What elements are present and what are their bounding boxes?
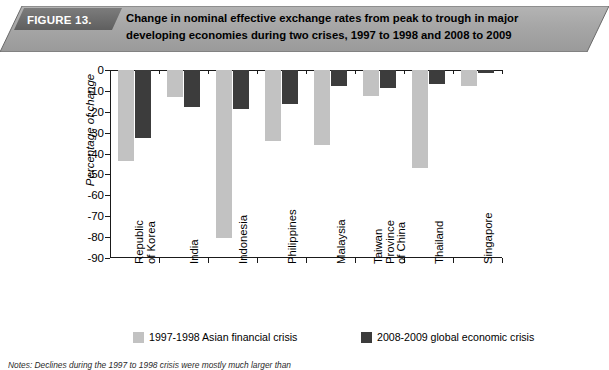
y-tick [105,91,110,92]
figure-number-label: FIGURE 13. [27,13,115,27]
y-tick [105,195,110,196]
bar-crisis-2008 [478,70,494,73]
bar-crisis-2008 [331,70,347,86]
bar-crisis-1997 [314,70,330,145]
category-label-line: Singapore [483,212,495,264]
y-axis-line [110,70,111,258]
category-label-line: Philippines [287,209,299,264]
y-axis-title: Percentage of change [84,64,96,196]
bar-crisis-1997 [118,70,134,161]
x-category-label: Indonesia [238,215,250,264]
x-tick-top [159,70,160,74]
y-tick [105,258,110,259]
bar-crisis-1997 [363,70,379,96]
y-tick [105,133,110,134]
category-label-line: of Korea [145,220,157,264]
category-label-line: Thailand [434,221,446,264]
x-category-label: Singapore [483,212,495,264]
y-tick [105,216,110,217]
x-tick-top [453,70,454,74]
bar-crisis-2008 [282,70,298,104]
legend-item-crisis_1997: 1997-1998 Asian financial crisis [133,330,297,344]
x-tick-top [306,70,307,74]
figure-title-line-1: Change in nominal effective exchange rat… [126,10,581,27]
x-tick-top [257,70,258,74]
bar-crisis-2008 [135,70,151,138]
category-label-line: India [189,240,201,265]
x-category-label: Republicof Korea [134,220,157,264]
y-tick [105,174,110,175]
bar-crisis-1997 [265,70,281,141]
category-label-line: of China [396,220,408,264]
chart-legend: 1997-1998 Asian financial crisis2008-200… [133,330,553,346]
banner-text-layer: FIGURE 13. Change in nominal effective e… [0,6,609,52]
bar-crisis-1997 [216,70,232,238]
figure-title: Change in nominal effective exchange rat… [126,10,581,43]
category-label-line: Taiwan [373,220,385,264]
x-tick-top [502,70,503,74]
category-label-line: Indonesia [238,215,250,264]
figure-banner: FIGURE 13. Change in nominal effective e… [0,6,609,52]
x-tick-top [208,70,209,74]
legend-label-crisis_1997: 1997-1998 Asian financial crisis [149,331,297,343]
x-tick-top [404,70,405,74]
x-axis-category-labels: Republicof KoreaIndiaIndonesiaPhilippine… [110,262,502,328]
bar-crisis-1997 [167,70,183,97]
y-tick [105,70,110,71]
bar-crisis-2008 [380,70,396,88]
y-tick [105,154,110,155]
x-tick-top [355,70,356,74]
bar-crisis-1997 [412,70,428,168]
bar-crisis-1997 [461,70,477,86]
bar-crisis-2008 [184,70,200,107]
bar-crisis-2008 [429,70,445,84]
figure-title-line-2: developing economies during two crises, … [126,27,581,44]
bar-crisis-2008 [233,70,249,109]
legend-item-crisis_2008: 2008-2009 global economic crisis [361,330,534,344]
legend-swatch-crisis_1997 [133,332,144,343]
x-category-label: Philippines [287,209,299,264]
category-label-line: Republic [134,220,146,264]
figure-notes: Notes: Declines during the 1997 to 1998 … [8,360,603,370]
y-tick-label: -80 [64,232,104,243]
y-tick [105,237,110,238]
y-tick-label: -70 [64,211,104,222]
legend-swatch-crisis_2008 [361,332,372,343]
x-category-label: India [189,240,201,265]
legend-label-crisis_2008: 2008-2009 global economic crisis [377,331,534,343]
y-tick-label: -90 [64,253,104,264]
x-category-label: Malaysia [336,219,348,264]
x-category-label: TaiwanProvinceof China [373,220,408,264]
x-tick [502,258,503,263]
x-category-label: Thailand [434,221,446,264]
category-label-line: Malaysia [336,219,348,264]
y-tick [105,112,110,113]
